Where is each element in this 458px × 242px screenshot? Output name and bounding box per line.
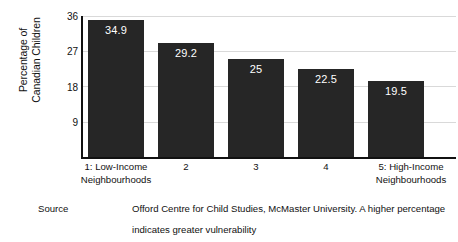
x-label-1: 1: Low-Income Neighbourhoods [67,160,165,186]
y-tick-label-9: 9 [52,118,78,128]
bar-5: 19.5 [368,81,424,157]
y-tick-label-18: 18 [52,83,78,93]
x-axis-line [81,157,456,159]
gridline-36 [81,16,456,17]
bar-value-5: 19.5 [368,85,424,98]
y-tick-label-27: 27 [52,47,78,57]
bar-chart-figure: Percentage of Canadian Children 36 27 18… [0,0,458,242]
y-tick-label-36: 36 [52,12,78,22]
x-label-5: 5: High-Income Neighbourhoods [362,160,458,186]
y-axis-tick-labels: 36 27 18 9 [52,0,78,165]
footnote-line-2: indicates greater vulnerability [132,219,450,240]
bar-2: 29.2 [158,43,214,157]
y-axis-title: Percentage of Canadian Children [12,0,48,134]
x-label-4-line-1: 4 [298,160,354,173]
x-label-3: 3 [228,160,284,173]
footnote-source-text: Offord Centre for Child Studies, McMaste… [132,198,450,240]
bar-value-1: 34.9 [88,24,144,37]
y-axis-line [81,16,83,157]
bar-value-4: 22.5 [298,73,354,86]
x-label-3-line-1: 3 [228,160,284,173]
y-axis-title-line-1: Percentage of [17,28,31,92]
bar-1: 34.9 [88,20,144,157]
x-label-1-line-2: Neighbourhoods [67,173,165,186]
footnote-line-1: Offord Centre for Child Studies, McMaste… [132,198,450,219]
plot-area: 34.9 29.2 25 22.5 19.5 [81,16,456,157]
bar-value-3: 25 [228,63,284,76]
bar-value-2: 29.2 [158,47,214,60]
x-label-2: 2 [158,160,214,173]
y-axis-title-line-2: Canadian Children [30,17,44,102]
footnote-source-label: Source [38,198,68,219]
plot-inner: 34.9 29.2 25 22.5 19.5 [81,16,456,157]
x-label-4: 4 [298,160,354,173]
bar-3: 25 [228,59,284,157]
x-label-2-line-1: 2 [158,160,214,173]
bar-4: 22.5 [298,69,354,157]
x-axis-category-labels: 1: Low-Income Neighbourhoods 2 3 4 5: Hi… [81,160,456,194]
x-label-5-line-1: 5: High-Income [362,160,458,173]
x-label-1-line-1: 1: Low-Income [67,160,165,173]
x-label-5-line-2: Neighbourhoods [362,173,458,186]
